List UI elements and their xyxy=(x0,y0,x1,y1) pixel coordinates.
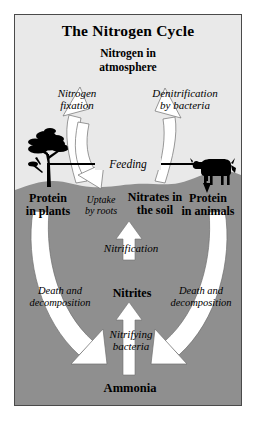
diagram-canvas xyxy=(15,15,241,405)
nitrogen-cycle-figure: The Nitrogen Cycle Nitrogen in atmospher… xyxy=(0,0,258,421)
denitrification-arrow xyxy=(155,88,181,183)
figure-frame: The Nitrogen Cycle Nitrogen in atmospher… xyxy=(14,14,242,406)
